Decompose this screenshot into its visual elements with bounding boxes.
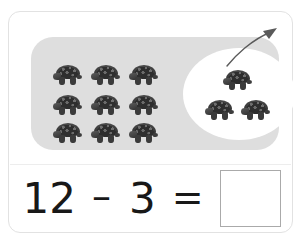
equation-equals-sign: = (172, 178, 204, 216)
equation-row: 12 – 3 = (9, 165, 292, 232)
tortoise-icon-9 (129, 123, 159, 144)
picture-region (9, 12, 292, 164)
tortoise-icon-12 (241, 100, 271, 121)
tortoise-icon-2 (91, 65, 121, 86)
worksheet-card: 12 – 3 = (8, 11, 293, 233)
tortoise-icon-11 (205, 100, 235, 121)
tortoise-icon-8 (91, 123, 121, 144)
equation-subtrahend: 3 (129, 178, 156, 220)
worksheet-screen: 12 – 3 = (0, 0, 301, 245)
tortoise-icon-7 (53, 123, 83, 144)
tortoise-icon-5 (91, 95, 121, 116)
equation-minus-operator: – (92, 177, 111, 215)
tortoise-icon-1 (53, 65, 83, 86)
tortoise-icon-10 (223, 70, 253, 91)
tortoise-icon-3 (129, 65, 159, 86)
tortoise-icon-6 (129, 95, 159, 116)
tortoise-icon-4 (53, 95, 83, 116)
curved-arrow-icon (205, 14, 285, 70)
equation-minuend: 12 (22, 178, 75, 220)
answer-input-box[interactable] (220, 170, 281, 227)
